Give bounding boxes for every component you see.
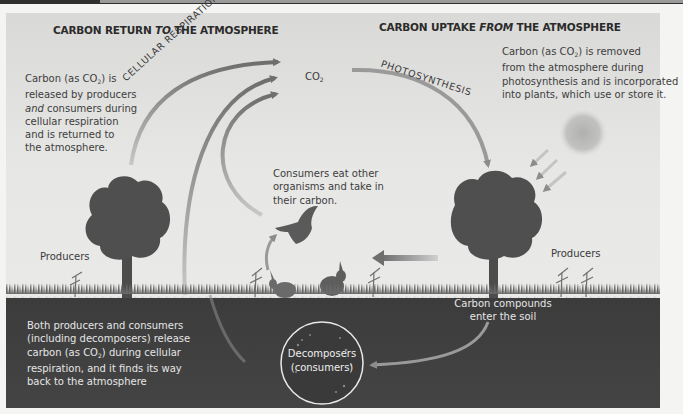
- left-explanation-text: Carbon (as CO2) is released by producers…: [25, 72, 137, 155]
- grass-strip: [6, 284, 660, 298]
- sun: [559, 109, 607, 157]
- consumer-eat-arrow: [266, 236, 275, 270]
- decomposers-label: Decomposers (consumers): [282, 347, 362, 375]
- producers-label-left: Producers: [40, 251, 90, 262]
- soil-explanation-text: Both producers and consumers (including …: [27, 319, 190, 388]
- co2-label: CO2: [305, 71, 324, 83]
- right-section-title: CARBON UPTAKE FROM THE ATMOSPHERE: [379, 21, 621, 33]
- bird-consumer: [275, 206, 318, 244]
- soil-compounds-arrow: [372, 322, 488, 365]
- producer-to-consumer-arrow-head: [372, 250, 384, 266]
- soil-compounds-text: Carbon compounds enter the soil: [448, 297, 558, 324]
- consumers-text: Consumers eat other organisms and take i…: [273, 167, 384, 207]
- producer-tree-right: [451, 171, 542, 298]
- producer-tree-left: [86, 176, 170, 298]
- sunlight-rays: [532, 150, 566, 190]
- producers-label-right: Producers: [551, 248, 601, 259]
- photosynthesis-arrow: [352, 70, 488, 165]
- producer-to-consumer-arrow-shaft: [382, 255, 438, 261]
- soil-respiration-arrow: [210, 295, 245, 362]
- right-explanation-text: Carbon (as CO2) is removed from the atmo…: [502, 45, 678, 101]
- respiration-arrow-inner: [223, 94, 276, 215]
